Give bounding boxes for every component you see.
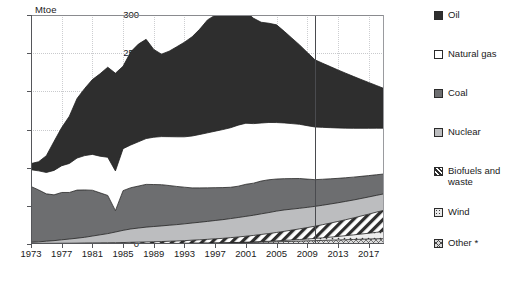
legend-item-coal[interactable]: Coal bbox=[434, 88, 468, 99]
legend-swatch-nuclear-icon bbox=[434, 128, 443, 137]
legend-label-oil: Oil bbox=[448, 10, 460, 21]
legend-item-other[interactable]: Other * bbox=[434, 238, 478, 249]
x-axis-tick-mark bbox=[62, 244, 63, 248]
x-axis-tick-label: 2009 bbox=[290, 248, 324, 259]
legend-item-biofuels-and-waste[interactable]: Biofuels and waste bbox=[434, 166, 500, 187]
legend-item-natural-gas[interactable]: Natural gas bbox=[434, 49, 497, 60]
x-axis-tick-mark bbox=[184, 244, 185, 248]
x-axis-tick-label: 2013 bbox=[321, 248, 355, 259]
x-axis-tick-label: 1993 bbox=[167, 248, 201, 259]
legend-item-wind[interactable]: Wind bbox=[434, 207, 470, 218]
legend-label-wind: Wind bbox=[448, 207, 470, 218]
x-axis-tick-mark bbox=[215, 244, 216, 248]
legend-item-nuclear[interactable]: Nuclear bbox=[434, 127, 481, 138]
x-axis-tick-mark bbox=[307, 244, 308, 248]
x-axis-tick-label: 2005 bbox=[260, 248, 294, 259]
legend-swatch-oil-icon bbox=[434, 11, 443, 20]
legend-item-oil[interactable]: Oil bbox=[434, 10, 460, 21]
legend-swatch-biofuels-and-waste-icon bbox=[434, 167, 443, 176]
y-axis-unit-label: Mtoe bbox=[35, 4, 57, 15]
legend-label-nuclear: Nuclear bbox=[448, 127, 481, 138]
legend-label-natural-gas: Natural gas bbox=[448, 49, 497, 60]
x-axis-tick-label: 1989 bbox=[137, 248, 171, 259]
x-axis-tick-label: 1981 bbox=[75, 248, 109, 259]
x-axis-tick-mark bbox=[31, 244, 32, 248]
legend: OilNatural gasCoalNuclearBiofuels and wa… bbox=[434, 8, 526, 248]
legend-label-coal: Coal bbox=[448, 88, 468, 99]
plot-area bbox=[31, 15, 384, 244]
cut-off-title bbox=[36, 0, 366, 2]
x-axis-tick-mark bbox=[154, 244, 155, 248]
legend-swatch-coal-icon bbox=[434, 89, 443, 98]
legend-swatch-natural-gas-icon bbox=[434, 50, 443, 59]
x-axis-tick-mark bbox=[277, 244, 278, 248]
x-axis-tick-label: 1973 bbox=[14, 248, 48, 259]
x-axis-tick-label: 1985 bbox=[106, 248, 140, 259]
x-axis-tick-mark bbox=[338, 244, 339, 248]
chart-figure: Mtoe 050100150200250300 1973197719811985… bbox=[0, 0, 526, 290]
x-axis-tick-mark bbox=[92, 244, 93, 248]
x-axis-tick-label: 1997 bbox=[198, 248, 232, 259]
x-axis-tick-label: 2001 bbox=[229, 248, 263, 259]
x-axis-tick-mark bbox=[123, 244, 124, 248]
x-axis-tick-label: 1977 bbox=[45, 248, 79, 259]
x-axis-tick-mark bbox=[246, 244, 247, 248]
x-axis-tick-mark bbox=[369, 244, 370, 248]
legend-label-biofuels-and-waste: Biofuels and waste bbox=[448, 166, 500, 187]
legend-swatch-wind-icon bbox=[434, 208, 443, 217]
legend-label-other: Other * bbox=[448, 238, 478, 249]
x-axis-tick-label: 2017 bbox=[352, 248, 386, 259]
legend-swatch-other-icon bbox=[434, 239, 443, 248]
plot-frame bbox=[31, 15, 384, 244]
